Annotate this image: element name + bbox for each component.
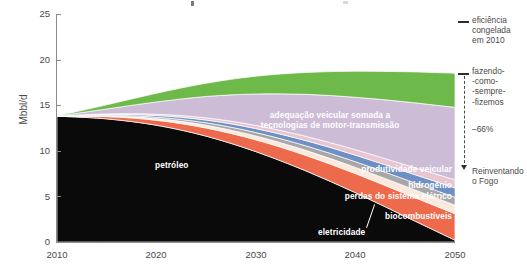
band-label-adequacao-line1: adequação veicular somada a xyxy=(250,110,410,120)
y-tick-mark-10 xyxy=(57,151,61,152)
y-tick-mark-15 xyxy=(57,105,61,106)
band-label-eficiencia-eia: eficiência da EIA xyxy=(311,48,379,58)
y-tick-label-0: 0 xyxy=(28,237,50,246)
band-label-hidrogenio: hidrogênio xyxy=(408,180,452,190)
band-label-petroleo: petróleo xyxy=(155,160,189,170)
annotation-business-as-usual: fazendo- -como- -sempre- -fizemos xyxy=(472,66,526,107)
y-tick-mark-0 xyxy=(57,242,61,243)
y-axis-line xyxy=(56,14,57,243)
chart-figure: 25 20 15 10 5 0 Mbbl/d 2010 2020 2030 20… xyxy=(0,0,527,274)
band-label-eletricidade: eletricidade xyxy=(318,227,365,237)
cropped-title-crumb-right xyxy=(343,1,348,4)
x-tick-label-2040: 2040 xyxy=(332,249,378,260)
band-label-adequacao-line2: tecnologias de motor-transmissão xyxy=(240,120,420,130)
y-tick-mark-25 xyxy=(57,14,61,15)
annotation-reinventing-fire: Reinventando o Fogo xyxy=(472,166,527,186)
y-tick-mark-20 xyxy=(57,60,61,61)
annotation-frozen-efficiency: eficiência congelada em 2010 xyxy=(472,15,526,46)
y-tick-label-10: 10 xyxy=(28,146,50,155)
x-tick-label-2010: 2010 xyxy=(34,249,80,260)
x-axis-line xyxy=(56,242,455,243)
band-label-perdas-sistema-eletrico: perdas do sistema elétrico xyxy=(345,191,452,201)
band-label-biocombustiveis: biocombustíveis xyxy=(385,211,452,221)
x-tick-label-2050: 2050 xyxy=(432,249,478,260)
y-axis-title: Mbbl/d xyxy=(18,80,29,140)
reduction-range-dashed-line xyxy=(464,76,465,168)
reinventing-fire-arrow-icon xyxy=(461,165,467,170)
y-tick-label-5: 5 xyxy=(28,192,50,201)
frozen-efficiency-tick xyxy=(458,21,469,23)
y-tick-mark-5 xyxy=(57,196,61,197)
annotation-reduction-percent: –66% xyxy=(472,124,526,134)
y-tick-label-25: 25 xyxy=(28,9,50,18)
y-tick-label-15: 15 xyxy=(28,100,50,109)
business-as-usual-tick xyxy=(458,73,469,75)
x-tick-label-2020: 2020 xyxy=(133,249,179,260)
y-tick-label-20: 20 xyxy=(28,55,50,64)
cropped-title-crumb-left xyxy=(191,1,194,6)
band-label-produtividade-veicular: produtividade veicular xyxy=(361,164,452,174)
x-tick-label-2030: 2030 xyxy=(233,249,279,260)
